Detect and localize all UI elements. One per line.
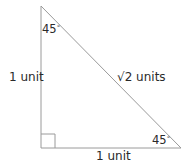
- bottom-right-angle-value: 45: [152, 133, 167, 147]
- right-angle-marker: [41, 134, 55, 148]
- degree-symbol: °: [57, 24, 61, 32]
- top-angle-label: 45°: [42, 22, 60, 36]
- top-angle-value: 45: [42, 22, 57, 36]
- bottom-right-angle-label: 45°: [152, 133, 170, 147]
- left-side-label: 1 unit: [9, 70, 44, 84]
- degree-symbol: °: [167, 135, 171, 143]
- sqrt-symbol: √: [117, 70, 125, 84]
- hypotenuse-label: √2 units: [117, 70, 166, 84]
- bottom-side-label: 1 unit: [96, 149, 131, 163]
- hypotenuse-value: 2 units: [125, 70, 166, 84]
